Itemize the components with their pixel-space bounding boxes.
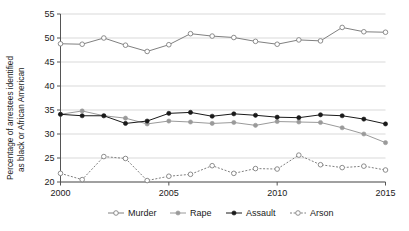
data-point-rape-2010: [275, 119, 279, 123]
data-point-assault-2005: [167, 111, 171, 115]
data-point-arson-2001: [80, 177, 85, 182]
y-tick-label-20: 20: [44, 177, 54, 187]
data-point-rape-2011: [297, 120, 301, 124]
data-point-murder-2002: [102, 36, 107, 41]
data-point-murder-2001: [80, 42, 85, 47]
series-murder: [58, 25, 388, 54]
data-point-rape-2015: [383, 141, 387, 145]
data-point-assault-2003: [123, 121, 127, 125]
axes: [57, 14, 386, 186]
legend-marker-arson: [296, 211, 301, 216]
legend-label-murder: Murder: [128, 208, 157, 218]
data-point-arson-2002: [102, 154, 107, 159]
y-axis-tick-labels: 2025303540455055: [44, 9, 54, 187]
data-point-rape-2014: [362, 132, 366, 136]
data-point-rape-2006: [188, 120, 192, 124]
data-point-arson-2007: [210, 163, 215, 168]
data-point-assault-2011: [297, 116, 301, 120]
data-point-arson-2003: [123, 156, 128, 161]
data-point-arson-2004: [145, 178, 150, 183]
data-point-rape-2001: [80, 109, 84, 113]
data-point-rape-2008: [232, 120, 236, 124]
y-axis-title: Percentage of arrestees identified as bl…: [5, 56, 26, 180]
data-point-rape-2012: [318, 120, 322, 124]
legend-item-assault[interactable]: Assault: [226, 208, 276, 218]
data-point-murder-2009: [253, 39, 258, 44]
data-point-arson-2011: [297, 153, 302, 158]
data-point-arson-2015: [383, 168, 388, 173]
legend-label-arson: Arson: [310, 208, 334, 218]
x-tick-label-2015: 2015: [375, 188, 395, 198]
y-tick-label-50: 50: [44, 33, 54, 43]
data-point-arson-2012: [318, 162, 323, 167]
y-axis-title-line-2: as black or African American: [16, 67, 26, 172]
data-point-murder-2012: [318, 39, 323, 44]
legend-label-rape: Rape: [190, 208, 212, 218]
data-point-arson-2010: [275, 167, 280, 172]
legend-marker-assault: [232, 211, 236, 215]
data-point-assault-2001: [80, 114, 84, 118]
data-point-murder-2006: [188, 31, 193, 36]
data-point-arson-2009: [253, 166, 258, 171]
data-point-arson-2014: [362, 164, 367, 169]
data-point-rape-2013: [340, 126, 344, 130]
data-point-murder-2008: [232, 35, 237, 40]
data-point-arson-2000: [58, 171, 63, 176]
data-point-murder-2007: [210, 34, 215, 39]
y-tick-label-55: 55: [44, 9, 54, 19]
data-point-assault-2015: [383, 122, 387, 126]
legend-marker-rape: [176, 211, 180, 215]
y-tick-label-45: 45: [44, 57, 54, 67]
data-point-murder-2003: [123, 43, 128, 48]
data-point-murder-2015: [383, 30, 388, 35]
x-tick-label-2010: 2010: [267, 188, 287, 198]
data-series-layer: [58, 25, 388, 183]
chart-legend: MurderRapeAssaultArson: [108, 208, 334, 218]
series-line-assault: [61, 112, 386, 124]
data-point-rape-2009: [253, 123, 257, 127]
y-tick-label-35: 35: [44, 105, 54, 115]
data-point-murder-2000: [58, 41, 63, 46]
data-point-assault-2012: [318, 113, 322, 117]
data-point-murder-2004: [145, 49, 150, 54]
data-point-murder-2014: [362, 29, 367, 34]
chart-container: 2025303540455055 2000200520102015 Percen…: [0, 0, 409, 231]
legend-marker-murder: [114, 211, 119, 216]
series-assault: [58, 110, 387, 126]
x-tick-label-2000: 2000: [50, 188, 70, 198]
series-line-arson: [61, 155, 386, 180]
x-axis-tick-labels: 2000200520102015: [50, 188, 395, 198]
series-arson: [58, 153, 388, 183]
data-point-murder-2010: [275, 42, 280, 47]
data-point-murder-2013: [340, 25, 345, 30]
series-rape: [58, 109, 387, 145]
data-point-assault-2006: [188, 110, 192, 114]
data-point-rape-2003: [123, 116, 127, 120]
data-point-assault-2013: [340, 114, 344, 118]
data-point-arson-2005: [167, 174, 172, 179]
data-point-rape-2005: [167, 119, 171, 123]
data-point-assault-2014: [362, 117, 366, 121]
data-point-murder-2011: [297, 38, 302, 43]
data-point-murder-2005: [167, 42, 172, 47]
data-point-assault-2000: [58, 112, 62, 116]
y-axis-title-line-1: Percentage of arrestees identified: [5, 56, 15, 180]
legend-item-rape[interactable]: Rape: [170, 208, 212, 218]
data-point-arson-2013: [340, 165, 345, 170]
legend-item-murder[interactable]: Murder: [108, 208, 157, 218]
y-tick-label-25: 25: [44, 153, 54, 163]
data-point-arson-2006: [188, 172, 193, 177]
legend-item-arson[interactable]: Arson: [290, 208, 334, 218]
y-tick-label-40: 40: [44, 81, 54, 91]
line-chart: 2025303540455055 2000200520102015 Percen…: [0, 0, 409, 231]
data-point-assault-2007: [210, 114, 214, 118]
data-point-assault-2002: [102, 114, 106, 118]
data-point-assault-2010: [275, 115, 279, 119]
data-point-assault-2004: [145, 119, 149, 123]
data-point-assault-2008: [232, 112, 236, 116]
data-point-arson-2008: [232, 171, 237, 176]
legend-label-assault: Assault: [246, 208, 276, 218]
data-point-assault-2009: [253, 113, 257, 117]
data-point-rape-2007: [210, 121, 214, 125]
series-line-murder: [61, 27, 386, 51]
